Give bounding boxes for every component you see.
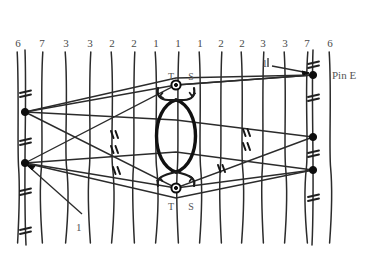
diagram-canvas [0, 0, 375, 257]
column-number-12: 3 [278, 38, 292, 49]
hash-left-upper-1 [116, 131, 119, 138]
leader-label-bottom-left-1: 1 [76, 222, 82, 233]
left-rail-tick-0 [20, 91, 31, 94]
pin-e-label: Pin E [332, 70, 356, 81]
column-number-11: 3 [256, 38, 270, 49]
left-rail-tick-b2 [20, 193, 31, 196]
column-number-14: 6 [323, 38, 337, 49]
column-number-1: 7 [35, 38, 49, 49]
column-number-10: 2 [235, 38, 249, 49]
column-number-2: 3 [59, 38, 73, 49]
node-right-2 [309, 166, 316, 173]
vertical-thread-2 [65, 52, 68, 243]
left-rail-tick-2 [20, 189, 31, 192]
right-rail-tick-b1 [308, 155, 319, 158]
bottom-node-label-s: S [186, 202, 196, 212]
left-rail-tick-1 [20, 139, 31, 142]
hash-right-lower-1 [248, 143, 251, 150]
top-node-label-s: S [186, 72, 196, 82]
column-number-8: 1 [193, 38, 207, 49]
vertical-thread-9 [220, 52, 222, 243]
loop-left-side [157, 100, 177, 172]
column-number-0: 6 [11, 38, 25, 49]
leader-arrow-right [302, 71, 309, 75]
loop-right-side [176, 100, 196, 172]
node-left-1 [21, 159, 28, 166]
column-number-6: 1 [149, 38, 163, 49]
left-rail-tick-b0 [20, 95, 31, 98]
top-node-label-t: T [166, 72, 176, 82]
left-rail-tick-bottom-b [20, 232, 31, 235]
hash-left-lower-1 [116, 146, 119, 153]
column-number-3: 3 [83, 38, 97, 49]
node-center-1-core [174, 186, 177, 189]
right-rail-tick-top-b [308, 66, 319, 69]
left-rail-tick-bottom-a [20, 228, 31, 231]
vertical-thread-5 [133, 52, 135, 243]
vertical-thread-0 [17, 52, 19, 243]
right-rail-tick-top-a [308, 62, 319, 65]
diagonal-thread-2 [25, 112, 313, 188]
hash-right-lower-0 [243, 143, 246, 150]
column-number-9: 2 [214, 38, 228, 49]
vertical-thread-3 [88, 52, 90, 243]
column-number-13: 7 [300, 38, 314, 49]
node-right-1 [309, 133, 316, 140]
vertical-thread-13 [305, 52, 308, 243]
leader-label-right-1: 1 [262, 58, 268, 69]
hash-right-upper-1 [248, 129, 251, 136]
vertical-thread-1 [40, 52, 42, 243]
node-left-0 [21, 108, 28, 115]
right-rail-tick-2 [308, 195, 319, 198]
node-right-0 [309, 71, 316, 78]
leader-line-bottom-left [27, 165, 82, 214]
left-axis-rail [25, 50, 26, 245]
bottom-node-label-t: T [166, 202, 176, 212]
right-rail-tick-0 [308, 95, 319, 98]
leader-arrow-bottom-left [27, 165, 35, 170]
vertical-thread-8 [199, 52, 201, 243]
column-number-4: 2 [105, 38, 119, 49]
right-rail-tick-1 [308, 151, 319, 154]
node-center-0-core [174, 83, 177, 86]
column-number-7: 1 [171, 38, 185, 49]
thread-diagram: 673322111223376 T S T S Pin E 1 1 [0, 0, 375, 257]
column-number-5: 2 [127, 38, 141, 49]
right-rail-tick-b0 [308, 99, 319, 102]
left-rail-tick-b1 [20, 143, 31, 146]
vertical-thread-11 [262, 52, 264, 243]
right-axis-rail [312, 50, 313, 245]
hash-right-upper-0 [243, 129, 246, 136]
right-rail-tick-b2 [308, 199, 319, 202]
hash-left-bottom-1 [118, 167, 121, 174]
